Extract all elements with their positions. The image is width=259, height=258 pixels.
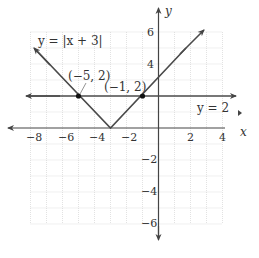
- y-tick: −4: [141, 185, 157, 198]
- x-tick: −6: [58, 131, 74, 144]
- x-tick: 4: [219, 131, 226, 144]
- point-right-label: (−1, 2): [104, 80, 146, 94]
- x-tick: 2: [187, 131, 194, 144]
- point-neg1-2: [140, 93, 145, 98]
- x-tick: −2: [121, 131, 137, 144]
- abs-left-arrow: [34, 48, 50, 65]
- equation-abs-label: y = |x + 3|: [37, 34, 103, 48]
- x-tick: −4: [89, 131, 105, 144]
- x-tick-labels: −8 −6 −4 −2 2 4: [26, 131, 226, 144]
- x-axis-right-arrow-icon: [238, 110, 242, 116]
- y-tick: −6: [141, 217, 157, 230]
- abs-right-arrow: [180, 30, 204, 54]
- y-tick: 4: [147, 58, 154, 71]
- point-neg5-2: [76, 93, 81, 98]
- y-axis-label: y: [164, 4, 172, 18]
- x-tick: −8: [26, 131, 42, 144]
- equation-line-label: y = 2: [196, 101, 229, 115]
- y-tick: −2: [141, 153, 157, 166]
- x-axis-label: x: [240, 125, 247, 139]
- y-tick: 6: [147, 26, 154, 39]
- coordinate-graph: y = |x + 3| y = 2 (−5, 2) (−1, 2) x y −8…: [0, 0, 259, 258]
- leader-line: [80, 83, 86, 94]
